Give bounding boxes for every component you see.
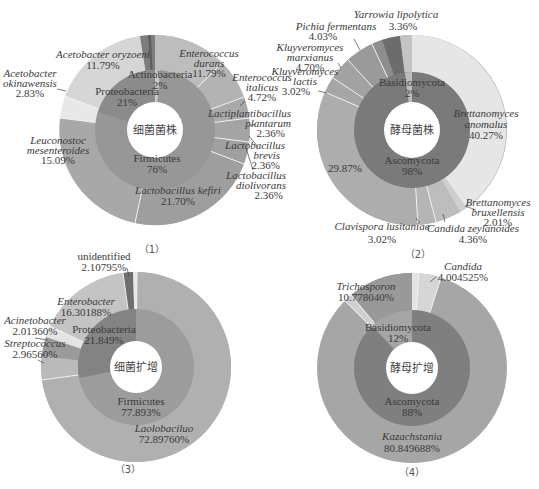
value-firmicutes: 76% <box>147 163 167 175</box>
value-streptococcus: 2.96560% <box>13 348 58 360</box>
value-acetobacter-oryzoeni: 11.79% <box>86 59 120 71</box>
chart-3-bacterial-amplicon: 细菌扩增 Proteobacteria 21.849% Firmicutes 7… <box>3 250 231 475</box>
chart-1-bacterial-strains: 细菌菌株 Actinobacteria 2% Proteobacteria 21… <box>2 35 291 255</box>
value-ascomycota-4: 88% <box>402 406 422 418</box>
value-major-unlabeled: 29.87% <box>328 162 362 174</box>
value-laolobaciluo: 72.89760% <box>139 433 189 445</box>
value-lactobacillus-kefiri: 21.70% <box>161 195 195 207</box>
value-lactiplantibacillus: 2.36% <box>257 127 285 139</box>
value-clavispora-lusitaniae: 3.02% <box>368 233 396 245</box>
chart-2-yeast-strains: 酵母菌株 Basidiomycota 2% Ascomycota 98% Yar… <box>271 8 531 260</box>
value-candida: 4.004525% <box>438 271 488 283</box>
value-enterococcus-durans: 11.79% <box>192 67 226 79</box>
leader-marxianus <box>338 63 341 68</box>
chart-1-caption: （1） <box>139 244 165 255</box>
value-yarrowia-lipolytica: 3.36% <box>389 20 417 32</box>
value-kluyveromyces-lactis: 3.02% <box>282 85 310 97</box>
chart-4-center-label: 酵母扩增 <box>390 361 434 375</box>
value-leuconostoc: 15.09% <box>41 154 75 166</box>
value-enterobacter: 16.30188% <box>61 306 111 318</box>
label-yarrowia-lipolytica: Yarrowia lipolytica <box>354 8 439 20</box>
chart-3-center-label: 细菌扩增 <box>114 360 158 374</box>
value-brettanomyces-anomalus: 40.27% <box>469 129 503 141</box>
value-lactobacillus-diolivorans: 2.36% <box>255 189 283 201</box>
value-basidiomycota: 2% <box>405 87 420 99</box>
chart-4-yeast-amplicon: 酵母扩增 Basidiomycota 12% Ascomycota 88% Ca… <box>317 260 507 478</box>
leader-acetobacter-okinawensis <box>57 89 66 91</box>
value-enterococcus-italicus: 4.72% <box>248 91 276 103</box>
value-kazachstania: 80.849688% <box>384 442 440 454</box>
value-acetobacter-okinawensis: 2.83% <box>16 87 44 99</box>
chart-3-caption: （3） <box>115 464 141 475</box>
label-clavispora-lusitaniae: Clavispora lusitaniae <box>334 220 429 232</box>
value-acinetobacter: 2.01360% <box>13 325 58 337</box>
chart-1-center-label: 细菌菌株 <box>133 123 177 137</box>
value-unidentified: 2.10795% <box>82 261 127 273</box>
value-candida-zeylanoides: 4.36% <box>459 233 487 245</box>
value-ascomycota: 98% <box>402 165 422 177</box>
value-proteobacteria-3: 21.849% <box>84 334 123 346</box>
chart-4-caption: （4） <box>399 467 425 478</box>
value-trichosporon: 10.778040% <box>338 291 394 303</box>
chart-2-caption: （2） <box>405 249 431 260</box>
chart-2-center-label: 酵母菌株 <box>390 123 434 137</box>
leader-pichia <box>354 39 360 50</box>
figure-canvas: 细菌菌株 Actinobacteria 2% Proteobacteria 21… <box>0 0 539 489</box>
value-firmicutes-3: 77.893% <box>121 406 160 418</box>
value-proteobacteria: 21% <box>117 96 137 108</box>
value-basidiomycota-4: 12% <box>388 332 408 344</box>
label-kazachstania: Kazachstania <box>381 430 442 442</box>
